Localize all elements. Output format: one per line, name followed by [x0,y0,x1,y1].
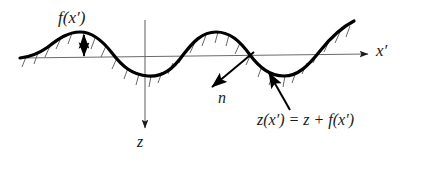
normal-vector-label: n [218,90,226,106]
normal-vector-arrow [212,52,254,87]
surface-profile-diagram: f(x′) x′ z n z(x′) = z + f(x′) [0,0,421,169]
equation-leader-arrow [269,73,290,110]
z-axis-label: z [137,134,143,150]
surface-equation-label: z(x′) = z + f(x′) [257,112,354,128]
x-axis-label: x′ [376,42,387,59]
height-function-label: f(x′) [58,9,85,26]
surface-profile-curve [20,21,354,76]
